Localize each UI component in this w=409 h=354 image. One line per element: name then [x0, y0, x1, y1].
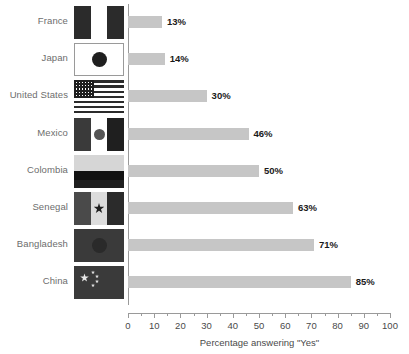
flag-colombia-icon	[74, 155, 124, 188]
x-axis-major-tick	[233, 313, 234, 318]
category-label-colombia: Colombia	[0, 164, 68, 176]
x-axis-major-tick	[338, 313, 339, 318]
x-axis-minor-tick	[272, 313, 273, 316]
chart-row: Mexico46%	[0, 116, 409, 153]
category-label-united-states: United States	[0, 89, 68, 101]
flag-united-states-icon	[74, 80, 124, 113]
bar-bangladesh	[128, 239, 314, 251]
bar-chart: France13%Japan14%United States30%Mexico4…	[0, 0, 409, 354]
flag-china-icon	[74, 266, 124, 299]
chart-row: France13%	[0, 4, 409, 41]
bar-value-label: 14%	[170, 53, 189, 65]
x-axis-major-tick	[285, 313, 286, 318]
flag-mexico-icon	[74, 118, 124, 151]
x-axis-major-tick	[364, 313, 365, 318]
x-axis-minor-tick	[194, 313, 195, 316]
x-axis-minor-tick	[167, 313, 168, 316]
bar-value-label: 13%	[167, 16, 186, 28]
chart-row: Colombia50%	[0, 153, 409, 190]
x-axis-minor-tick	[351, 313, 352, 316]
chart-row: Bangladesh71%	[0, 227, 409, 264]
bar-china	[128, 276, 351, 288]
x-axis-minor-tick	[141, 313, 142, 316]
x-axis-major-tick	[154, 313, 155, 318]
x-axis-minor-tick	[325, 313, 326, 316]
category-label-france: France	[0, 15, 68, 27]
chart-row: China85%	[0, 264, 409, 301]
x-axis-minor-tick	[377, 313, 378, 316]
x-axis-major-tick	[390, 313, 391, 318]
chart-row: United States30%	[0, 78, 409, 115]
bar-france	[128, 16, 162, 28]
category-label-bangladesh: Bangladesh	[0, 238, 68, 250]
x-axis-minor-tick	[298, 313, 299, 316]
category-label-mexico: Mexico	[0, 127, 68, 139]
category-label-senegal: Senegal	[0, 201, 68, 213]
category-label-china: China	[0, 275, 68, 287]
bar-value-label: 50%	[264, 165, 283, 177]
flag-senegal-icon	[74, 192, 124, 225]
x-axis-minor-tick	[220, 313, 221, 316]
bar-mexico	[128, 128, 249, 140]
x-axis-title: Percentage answering "Yes"	[128, 337, 391, 349]
category-label-japan: Japan	[0, 52, 68, 64]
x-axis-tick-label: 100	[375, 320, 405, 332]
bar-value-label: 63%	[298, 202, 317, 214]
bar-value-label: 46%	[254, 128, 273, 140]
bar-value-label: 30%	[212, 90, 231, 102]
bar-senegal	[128, 202, 293, 214]
flag-japan-icon	[74, 43, 124, 76]
chart-row: Senegal63%	[0, 190, 409, 227]
x-axis-major-tick	[207, 313, 208, 318]
chart-row: Japan14%	[0, 41, 409, 78]
x-axis-minor-tick	[246, 313, 247, 316]
flag-bangladesh-icon	[74, 229, 124, 262]
flag-france-icon	[74, 6, 124, 39]
x-axis-major-tick	[311, 313, 312, 318]
bar-united-states	[128, 90, 207, 102]
bar-value-label: 85%	[356, 276, 375, 288]
bar-japan	[128, 53, 165, 65]
x-axis-major-tick	[128, 313, 129, 318]
bar-value-label: 71%	[319, 239, 338, 251]
bar-colombia	[128, 165, 259, 177]
x-axis-major-tick	[259, 313, 260, 318]
x-axis-major-tick	[180, 313, 181, 318]
